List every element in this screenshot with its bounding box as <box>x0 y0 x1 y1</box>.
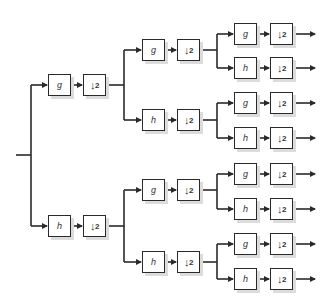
highpass-filter-box: h <box>142 109 165 131</box>
downsample-box: ↓2 <box>177 179 200 201</box>
downsample-box: ↓2 <box>270 57 293 79</box>
downsample-box: ↓2 <box>270 163 293 185</box>
downsample-box: ↓2 <box>177 39 200 61</box>
downsample-box: ↓2 <box>270 127 293 149</box>
lowpass-filter-box: g <box>142 39 165 61</box>
downsample-factor: 2 <box>282 64 286 73</box>
highpass-filter-box: h <box>48 215 71 237</box>
lowpass-filter-box: g <box>48 74 71 96</box>
downsample-factor: 2 <box>189 46 193 55</box>
highpass-filter-box: h <box>234 127 257 149</box>
downsample-factor: 2 <box>282 99 286 108</box>
connection-lines <box>0 0 334 304</box>
downsample-factor: 2 <box>189 116 193 125</box>
downsample-factor: 2 <box>282 30 286 39</box>
highpass-filter-box: h <box>234 57 257 79</box>
downsample-factor: 2 <box>189 186 193 195</box>
lowpass-filter-box: g <box>234 92 257 114</box>
downsample-factor: 2 <box>95 81 99 90</box>
highpass-filter-box: h <box>234 198 257 220</box>
downsample-factor: 2 <box>189 258 193 267</box>
lowpass-filter-box: g <box>234 23 257 45</box>
downsample-box: ↓2 <box>270 23 293 45</box>
downsample-box: ↓2 <box>177 109 200 131</box>
downsample-box: ↓2 <box>270 233 293 255</box>
downsample-factor: 2 <box>282 205 286 214</box>
downsample-factor: 2 <box>282 275 286 284</box>
downsample-box: ↓2 <box>270 92 293 114</box>
downsample-factor: 2 <box>282 240 286 249</box>
highpass-filter-box: h <box>234 268 257 290</box>
downsample-box: ↓2 <box>83 74 106 96</box>
downsample-box: ↓2 <box>270 198 293 220</box>
downsample-box: ↓2 <box>83 215 106 237</box>
lowpass-filter-box: g <box>142 179 165 201</box>
downsample-factor: 2 <box>282 170 286 179</box>
downsample-factor: 2 <box>282 134 286 143</box>
downsample-box: ↓2 <box>177 251 200 273</box>
downsample-box: ↓2 <box>270 268 293 290</box>
lowpass-filter-box: g <box>234 233 257 255</box>
highpass-filter-box: h <box>142 251 165 273</box>
downsample-factor: 2 <box>95 222 99 231</box>
lowpass-filter-box: g <box>234 163 257 185</box>
